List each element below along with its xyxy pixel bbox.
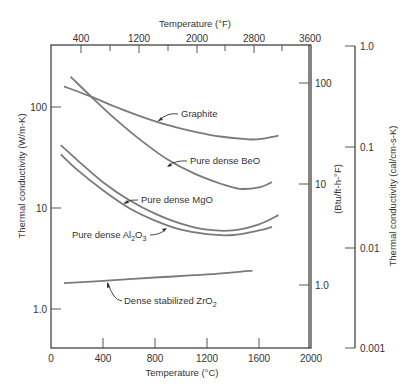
btu-tick-label: 10 bbox=[315, 179, 327, 190]
bottom-axis-title: Temperature (°C) bbox=[146, 367, 219, 378]
data-curves bbox=[61, 77, 279, 284]
left-axis-title: Thermal conductivity (W/m-K) bbox=[16, 113, 27, 238]
cal-axis-title: Thermal conductivity (cal/cm-s-K) bbox=[387, 126, 398, 267]
top-tick-label: 400 bbox=[73, 33, 90, 44]
top-tick-label: 2000 bbox=[186, 33, 209, 44]
left-tick-label: 10 bbox=[36, 203, 48, 214]
bottom-tick-label: 800 bbox=[147, 353, 164, 364]
label-beo: Pure dense BeO bbox=[167, 155, 260, 167]
top-tick-label: 3600 bbox=[299, 33, 322, 44]
mgo-label: Pure dense MgO bbox=[141, 194, 213, 205]
curve-beo bbox=[71, 77, 273, 189]
bottom-axis-ticks bbox=[103, 338, 259, 348]
al2o3-label: Pure dense Al2O3 bbox=[72, 229, 146, 242]
right-cal-axis: 1.0 0.1 0.01 0.001 bbox=[345, 41, 385, 354]
thermal-conductivity-chart: Temperature (°F) 400 1200 2000 2800 3600… bbox=[0, 0, 418, 388]
btu-tick-label: 100 bbox=[315, 78, 332, 89]
cal-tick-label: 0.01 bbox=[360, 243, 380, 254]
top-tick-label: 1200 bbox=[128, 33, 151, 44]
graphite-label: Graphite bbox=[181, 108, 217, 119]
zro2-label: Dense stabilized ZrO2 bbox=[124, 295, 217, 308]
right-btu-axis: 100 10 1.0 bbox=[299, 78, 332, 291]
btu-tick-label: 1.0 bbox=[315, 280, 329, 291]
left-tick-label: 1.0 bbox=[33, 304, 47, 315]
top-axis-ticks bbox=[81, 45, 282, 53]
label-al2o3: Pure dense Al2O3 bbox=[72, 228, 167, 242]
cal-tick-label: 0.1 bbox=[360, 142, 374, 153]
curve-zro2 bbox=[64, 271, 253, 284]
top-tick-label: 2800 bbox=[243, 33, 266, 44]
beo-label: Pure dense BeO bbox=[190, 155, 260, 166]
bottom-tick-label: 0 bbox=[48, 353, 54, 364]
bottom-axis-tick-labels: 0 400 800 1200 1600 2000 bbox=[48, 353, 322, 364]
bottom-tick-label: 1200 bbox=[196, 353, 219, 364]
left-axis: 100 10 1.0 bbox=[30, 102, 61, 315]
cal-tick-label: 1.0 bbox=[360, 41, 374, 52]
cal-tick-label: 0.001 bbox=[360, 343, 385, 354]
label-zro2: Dense stabilized ZrO2 bbox=[107, 282, 217, 308]
left-tick-label: 100 bbox=[30, 102, 47, 113]
bottom-tick-label: 1600 bbox=[248, 353, 271, 364]
bottom-tick-label: 2000 bbox=[300, 353, 323, 364]
btu-axis-title: (Btu/ft-h-°F) bbox=[332, 164, 343, 214]
label-mgo: Pure dense MgO bbox=[124, 194, 213, 205]
top-axis-title: Temperature (°F) bbox=[159, 18, 231, 29]
bottom-tick-label: 400 bbox=[95, 353, 112, 364]
top-axis-tick-labels: 400 1200 2000 2800 3600 bbox=[73, 33, 322, 44]
label-graphite: Graphite bbox=[158, 108, 217, 121]
curve-graphite bbox=[64, 86, 279, 139]
